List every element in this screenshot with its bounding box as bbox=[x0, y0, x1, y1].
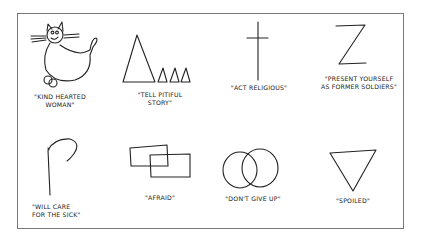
hook-icon bbox=[48, 139, 77, 195]
caption-will-care-for-the-sick: "WILL CARE FOR THE SICK" bbox=[32, 203, 96, 219]
overlapping-rectangles-icon bbox=[130, 145, 190, 177]
caption-dont-give-up: "DON'T GIVE UP" bbox=[222, 195, 284, 203]
caption-spoiled: "SPOILED" bbox=[328, 197, 378, 205]
z-letter-icon bbox=[336, 25, 366, 64]
caption-present-yourself-as-former-soldiers: "PRESENT YOURSELF AS FORMER SOLDIERS" bbox=[316, 75, 402, 91]
caption-act-religious: "ACT RELIGIOUS" bbox=[228, 84, 290, 92]
caption-tell-pitiful-story: "TELL PITIFUL STORY" bbox=[125, 91, 195, 107]
inverted-triangle-icon bbox=[330, 150, 376, 191]
overlapping-circles-icon bbox=[223, 149, 278, 188]
caption-kind-hearted-woman: "KIND HEARTED WOMAN" bbox=[30, 93, 90, 109]
caption-afraid: "AFRAID" bbox=[135, 194, 185, 202]
cross-icon bbox=[247, 22, 268, 80]
cat-icon bbox=[31, 22, 97, 87]
triangles-icon bbox=[123, 35, 190, 82]
